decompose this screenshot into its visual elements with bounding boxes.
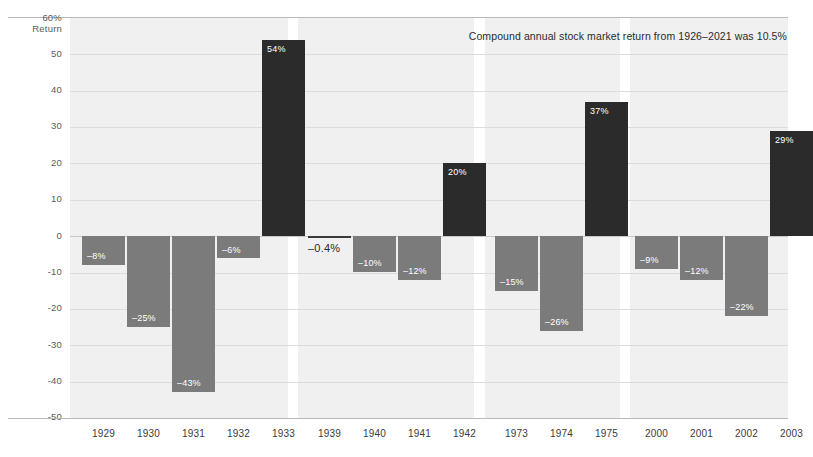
gridline-20 [70,163,788,164]
bar-1975[interactable]: 37% [585,102,628,236]
bar-label-2000: –9% [640,255,659,265]
y-tick-n30: -30 [48,340,62,350]
x-tick-2003: 2003 [770,428,813,439]
x-tick-1933: 1933 [262,428,305,439]
y-tick-n20: -20 [48,303,62,313]
gridline-40 [70,91,788,92]
bar-1973[interactable]: –15% [495,236,538,291]
y-tick-40: 40 [51,85,62,95]
y-tick-n10: -10 [48,267,62,277]
bar-label-1942: 20% [448,167,467,177]
bar-label-1973: –15% [500,277,524,287]
bar-label-2001: –12% [685,266,709,276]
bar-label-1974: –26% [545,317,569,327]
bar-1941[interactable]: –12% [398,236,441,280]
y-axis-unit: 60% [42,12,62,23]
x-tick-2002: 2002 [725,428,768,439]
bar-label-1929: –8% [87,251,106,261]
bar-1929[interactable]: –8% [82,236,125,265]
y-axis-labels: 60% Return 50 40 30 20 10 0 -10 -20 -30 … [0,18,62,418]
gridline-10 [70,200,788,201]
bar-2001[interactable]: –12% [680,236,723,280]
bar-label-1931: –43% [177,378,201,388]
y-tick-30: 30 [51,121,62,131]
band-2000-2003 [630,18,788,418]
bar-1974[interactable]: –26% [540,236,583,331]
bar-label-2002: –22% [730,302,754,312]
x-tick-1930: 1930 [127,428,170,439]
gridline-50 [70,54,788,55]
bar-label-1975: 37% [590,106,609,116]
bar-1930[interactable]: –25% [127,236,170,327]
bar-1932[interactable]: –6% [217,236,260,258]
bar-1933[interactable]: 54% [262,40,305,236]
chart-annotation: Compound annual stock market return from… [469,30,787,42]
x-tick-1939: 1939 [308,428,351,439]
bar-label-1930: –25% [132,313,156,323]
y-axis-title: 60% Return [32,12,62,34]
x-tick-2000: 2000 [635,428,678,439]
x-tick-1941: 1941 [398,428,441,439]
x-tick-1942: 1942 [443,428,486,439]
x-tick-1931: 1931 [172,428,215,439]
bar-label-1940: –10% [358,258,382,268]
bar-1940[interactable]: –10% [353,236,396,272]
y-tick-50: 50 [51,49,62,59]
bar-1942[interactable]: 20% [443,163,486,236]
bar-label-1941: –12% [403,266,427,276]
bar-label-1933: 54% [267,44,286,54]
bar-1931[interactable]: –43% [172,236,215,392]
y-tick-0: 0 [57,231,62,241]
x-tick-1973: 1973 [495,428,538,439]
x-axis-labels: 1929 1930 1931 1932 1933 1939 1940 1941 … [70,424,788,448]
bar-2003[interactable]: 29% [770,131,813,236]
bar-label-1932: –6% [222,245,241,255]
bar-2000[interactable]: –9% [635,236,678,269]
plot-area: –8% –25% –43% –6% 54% –0.4% –10% –12% [70,18,788,418]
y-tick-n50: -50 [48,412,62,422]
chart-bottom-rule [8,418,788,419]
x-tick-1929: 1929 [82,428,125,439]
x-tick-1940: 1940 [353,428,396,439]
bar-label-1939: –0.4% [308,242,340,254]
gridline-30 [70,127,788,128]
y-tick-10: 10 [51,194,62,204]
bar-1939[interactable]: –0.4% [308,236,351,238]
x-tick-2001: 2001 [680,428,723,439]
y-axis-label: Return [32,23,62,34]
bar-2002[interactable]: –22% [725,236,768,316]
bar-label-2003: 29% [775,135,794,145]
x-tick-1975: 1975 [585,428,628,439]
y-tick-n40: -40 [48,376,62,386]
x-tick-1974: 1974 [540,428,583,439]
x-tick-1932: 1932 [217,428,260,439]
y-tick-20: 20 [51,158,62,168]
